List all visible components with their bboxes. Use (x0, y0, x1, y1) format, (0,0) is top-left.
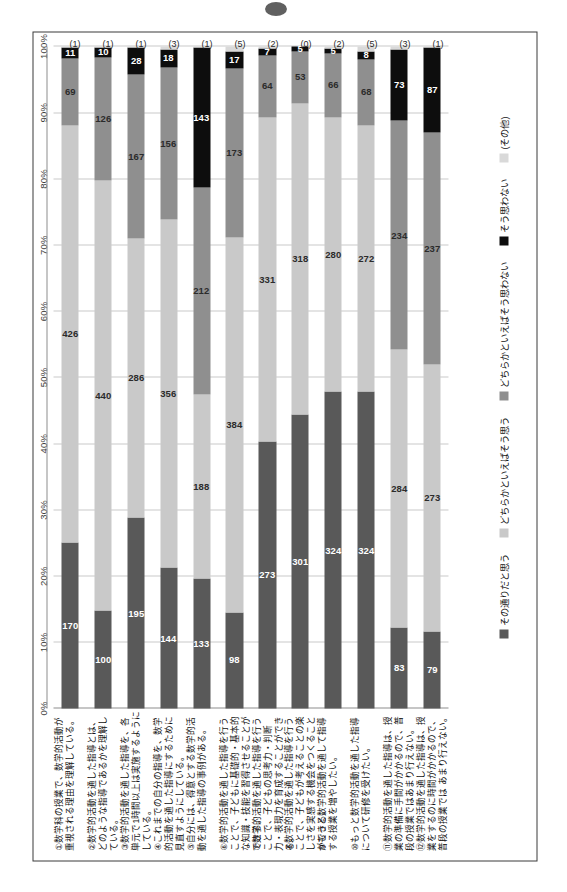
bar-segment-series-4: 11 (61, 47, 78, 58)
bar-value-label: 133 (193, 638, 209, 648)
bar-segment-series-3: 53 (291, 51, 308, 103)
bar-segment-series-2: 273 (423, 364, 440, 631)
bar-segment-series-3: 126 (94, 57, 111, 180)
bar-value-label: 173 (226, 147, 242, 157)
category-label-6: ⑥数学的活動を通した指導を行うことで、子どもに基礎的・基本的な知識・技能を習得さ… (218, 710, 251, 850)
bar-value-label: 280 (325, 250, 341, 260)
bar-value-label: 79 (426, 665, 437, 675)
bar-row: 324272688(5) (357, 46, 374, 708)
category-label-7: ⑦数学的活動を通した指導を行うことで、子どもの思考力・判断力・表現力を育成するこ… (251, 710, 284, 850)
category-label-5: ⑤自分には、得意とする数学的活動を通した指導の事例がある。 (185, 710, 218, 850)
bar-rows: 1704266911(1)10044012610(1)19528616728(1… (53, 46, 448, 708)
bar-row: 1704266911(1) (61, 46, 78, 708)
bar-segment-series-2: 356 (160, 219, 177, 567)
category-label-4: ④これまでの自分の指導を、数学的活動を通した指導にするために見直すようにしている… (152, 710, 185, 850)
bar-row: 10044012610(1) (94, 46, 111, 708)
bar-segment-series-2: 286 (127, 238, 144, 518)
plot-area: 1704266911(1)10044012610(1)19528616728(1… (53, 46, 448, 708)
bar-segment-series-1: 170 (61, 542, 78, 708)
bar-value-label: 273 (259, 570, 275, 580)
bar-segment-series-4: 7 (258, 48, 275, 55)
bar-value-label: 286 (127, 373, 143, 383)
category-label-1: ①数学科の授業で、数学的活動が重視される理由を理解している。 (53, 710, 86, 850)
bar-segment-series-3: 212 (193, 187, 210, 394)
bar-value-label: 237 (424, 243, 440, 253)
bar-value-label: 440 (94, 390, 110, 400)
bar-row: 324280665(2) (324, 46, 341, 708)
bar-value-label: 195 (127, 608, 143, 618)
bar-segment-series-1: 273 (258, 441, 275, 708)
other-count-label: (1) (102, 38, 113, 48)
bar-segment-series-1: 79 (423, 631, 440, 708)
bar-value-label: 87 (426, 85, 437, 95)
legend-item-1: その通りだと思う (496, 553, 510, 638)
bar-value-label: 156 (160, 138, 176, 148)
bar-segment-series-2: 331 (258, 117, 275, 441)
bar-value-label: 100 (94, 654, 110, 664)
legend-swatch-icon (499, 391, 508, 400)
bar-segment-series-4: 18 (160, 49, 177, 67)
bar-segment-series-1: 83 (390, 627, 407, 708)
legend-item-4: そう思わない (496, 178, 510, 245)
bar-value-label: 356 (160, 388, 176, 398)
bar-segment-series-2: 272 (357, 125, 374, 391)
bar-value-label: 66 (327, 80, 338, 90)
bar-value-label: 83 (393, 663, 404, 673)
bar-segment-series-4: 5 (324, 48, 341, 53)
bar-row: 8328423473(3) (390, 46, 407, 708)
bar-value-label: 324 (325, 545, 341, 555)
x-axis-tick-labels: 0%10%20%30%40%50%60%70%80%90%100% (37, 46, 53, 708)
bar-segment-series-3: 234 (390, 120, 407, 349)
bar-value-label: 331 (259, 274, 275, 284)
bar-segment-series-4: 8 (357, 51, 374, 59)
bar-segment-series-1: 100 (94, 610, 111, 708)
bar-segment-series-1: 98 (225, 612, 242, 708)
bar-segment-series-3: 64 (258, 55, 275, 118)
other-count-label: (2) (333, 38, 344, 48)
category-label-8: ⑧数学的活動を通した指導を行うことで、子どもが考えることの楽しさを実感する機会を… (283, 710, 316, 850)
other-count-label: (3) (168, 38, 179, 48)
legend-label: どちらかといえばそう思わない (496, 261, 510, 387)
bar-value-label: 272 (358, 253, 374, 263)
legend-label: どちらかといえばそう思う (496, 416, 510, 524)
bar-value-label: 284 (391, 483, 407, 493)
bar-segment-series-4: 17 (225, 51, 242, 68)
bar-segment-series-3: 66 (324, 53, 341, 118)
legend-label: そう思わない (496, 178, 510, 232)
bar-segment-series-3: 69 (61, 58, 78, 125)
bar-segment-series-1: 195 (127, 517, 144, 708)
bar-value-label: 324 (358, 545, 374, 555)
bar-value-label: 144 (160, 633, 176, 643)
bar-segment-series-2: 426 (61, 125, 78, 542)
bar-segment-series-4: 87 (423, 47, 440, 132)
other-count-label: (5) (366, 38, 377, 48)
bar-segment-series-4: 28 (127, 47, 144, 74)
chart-figure: 0%10%20%30%40%50%60%70%80%90%100% 170426… (22, 23, 545, 869)
bar-segment-series-2: 384 (225, 237, 242, 612)
legend-item-3: どちらかといえばそう思わない (496, 261, 510, 400)
bar-row: 9838417317(5) (225, 46, 242, 708)
other-count-label: (1) (69, 38, 80, 48)
bar-value-label: 10 (97, 47, 108, 57)
bar-segment-series-2: 280 (324, 117, 341, 391)
other-count-label: (3) (399, 38, 410, 48)
bar-row: 7927323787(1) (423, 46, 440, 708)
bar-value-label: 98 (229, 655, 240, 665)
bar-value-label: 234 (391, 230, 407, 240)
bar-value-label: 73 (393, 80, 404, 90)
other-count-label: (5) (234, 38, 245, 48)
bar-segment-series-5: (1) (61, 46, 78, 47)
bar-row: 301318535(0) (291, 46, 308, 708)
bar-value-label: 53 (295, 72, 306, 82)
legend-label: その通りだと思う (496, 553, 510, 625)
other-count-label: (1) (432, 38, 443, 48)
bar-value-label: 143 (193, 112, 209, 122)
bar-segment-series-5: (1) (193, 46, 210, 47)
bar-row: 19528616728(1) (127, 46, 144, 708)
bar-segment-series-3: 156 (160, 67, 177, 220)
bar-row: 273331647(2) (258, 46, 275, 708)
other-count-label: (2) (267, 38, 278, 48)
bar-value-label: 384 (226, 420, 242, 430)
bar-segment-series-5: (3) (390, 46, 407, 49)
legend-item-2: どちらかといえばそう思う (496, 416, 510, 537)
